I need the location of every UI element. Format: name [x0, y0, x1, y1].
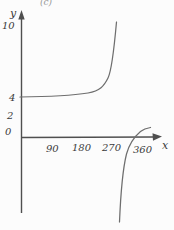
figure-label: (c) — [40, 0, 53, 7]
x-tick-270: 270 — [101, 142, 122, 153]
x-axis-label: x — [162, 139, 169, 152]
y-tick-0: 0 — [5, 126, 12, 137]
x-tick-90: 90 — [46, 143, 59, 154]
x-axis-arrowhead-icon — [153, 133, 163, 141]
y-tick-2: 2 — [6, 110, 13, 121]
x-tick-180: 180 — [72, 142, 92, 153]
trig-graph-figure: (c) y x 10 4 2 0 90 180 270 360 — [0, 0, 174, 230]
y-axis-label: y — [9, 7, 17, 20]
curve-upper-branch — [20, 22, 117, 97]
y-axis-arrowhead-icon — [18, 10, 24, 20]
y-tick-10: 10 — [2, 20, 15, 31]
curve-lower-branch — [120, 128, 151, 223]
graph-canvas: (c) y x 10 4 2 0 90 180 270 360 — [0, 0, 174, 230]
y-tick-4: 4 — [8, 92, 15, 103]
x-tick-360: 360 — [133, 144, 153, 155]
